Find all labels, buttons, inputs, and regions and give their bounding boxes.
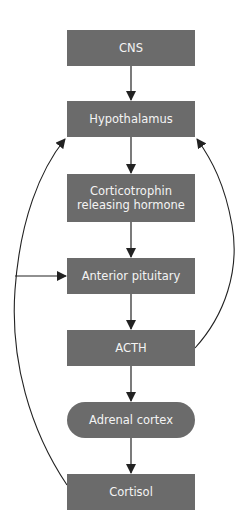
node-crh-label-line2: releasing hormone (77, 198, 185, 212)
node-hypothalamus-label: Hypothalamus (89, 112, 172, 126)
node-cns-label: CNS (119, 41, 143, 55)
edge-cortisol-hypothalamus (14, 139, 67, 485)
node-cortisol-label: Cortisol (109, 485, 153, 499)
node-adrenal-cortex: Adrenal cortex (67, 402, 195, 438)
edge-acth-hypothalamus (195, 139, 234, 348)
node-adrenal-cortex-label: Adrenal cortex (89, 413, 173, 427)
node-cortisol: Cortisol (67, 474, 195, 510)
node-acth: ACTH (67, 330, 195, 366)
node-anterior-pituitary-label: Anterior pituitary (82, 269, 181, 283)
node-hypothalamus: Hypothalamus (67, 101, 195, 137)
node-crh: Corticotrophin releasing hormone (67, 174, 195, 222)
hpa-axis-diagram: CNS Hypothalamus Corticotrophin releasin… (0, 0, 245, 532)
node-crh-label-line1: Corticotrophin (90, 184, 172, 198)
node-cns: CNS (67, 30, 195, 66)
node-acth-label: ACTH (115, 341, 146, 355)
node-anterior-pituitary: Anterior pituitary (67, 258, 195, 294)
